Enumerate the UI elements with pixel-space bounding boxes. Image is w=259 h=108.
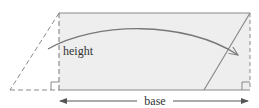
height-label: height: [63, 44, 94, 58]
dashed-triangle-slant: [10, 13, 59, 90]
right-angle-mark-left: [51, 82, 59, 90]
base-label: base: [144, 94, 165, 108]
parallelogram-area-diagram: height base: [0, 0, 259, 108]
